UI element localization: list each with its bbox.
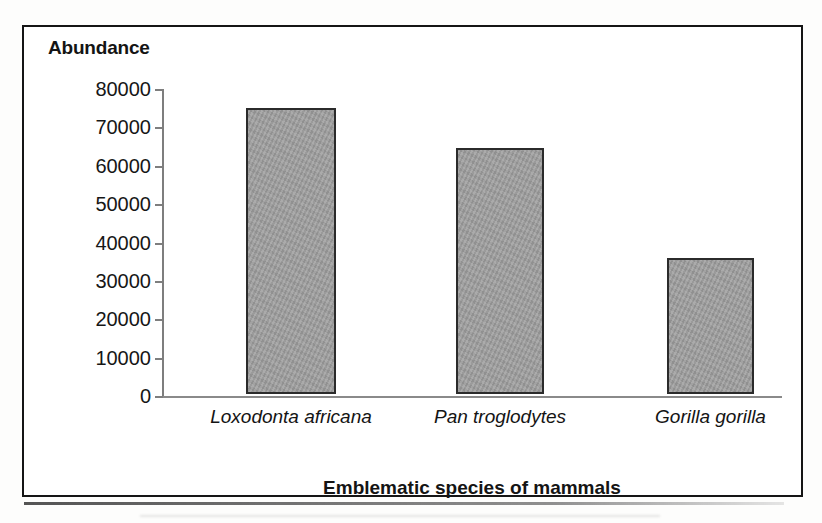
y-axis-tick-label: 20000 [95,309,151,329]
scan-artifact-line-secondary [140,515,660,517]
y-axis-tick-mark [155,166,163,168]
y-axis-tick-mark [155,127,163,129]
y-axis-tick-mark [155,396,163,398]
y-axis-tick-label: 70000 [95,117,151,137]
bar [246,108,336,394]
y-axis-tick-mark [155,358,163,360]
y-axis-tick-label: 60000 [95,156,151,176]
y-axis-tick-mark [155,281,163,283]
x-axis-title: Emblematic species of mammals [162,477,782,499]
y-axis-tick-label: 10000 [95,348,151,368]
chart-title: Abundance [48,37,150,59]
x-axis-tick-label: Loxodonta africana [210,407,372,426]
bar [667,258,754,394]
x-axis-tick-label: Pan troglodytes [434,407,566,426]
x-axis-tick-label: Gorilla gorilla [655,407,766,426]
page-background: Abundance 800007000060000500004000030000… [0,0,822,523]
y-axis-tick-label: 50000 [95,194,151,214]
y-axis-tick-label: 30000 [95,271,151,291]
y-axis-tick-mark [155,89,163,91]
bar [456,148,544,394]
y-axis-tick-mark [155,204,163,206]
plot-area: 8000070000600005000040000300002000010000… [162,89,782,396]
y-axis-tick-label: 0 [140,386,151,406]
x-axis-line [162,396,782,398]
y-axis-tick-label: 80000 [95,79,151,99]
figure-frame: Abundance 800007000060000500004000030000… [22,25,803,497]
y-axis-tick-mark [155,319,163,321]
scan-artifact-line [24,502,784,505]
y-axis-tick-label: 40000 [95,233,151,253]
y-axis-tick-mark [155,243,163,245]
